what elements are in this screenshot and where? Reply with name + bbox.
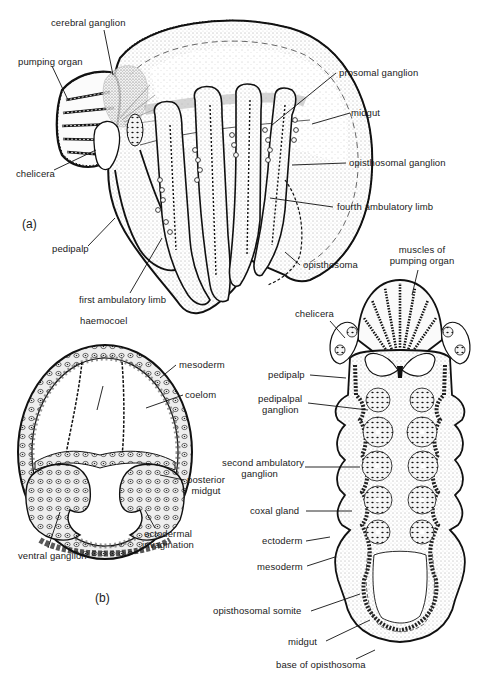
- label-chelicera-a: chelicera: [16, 168, 55, 179]
- label-fourth-ambulatory-limb: fourth ambulatory limb: [337, 201, 433, 212]
- label-muscles-of-pumping-organ: muscles of pumping organ: [389, 244, 455, 266]
- label-opisthosomal-ganglion: opisthosomal ganglion: [349, 157, 446, 168]
- label-base-of-opisthosoma: base of opisthosoma: [276, 659, 366, 670]
- label-mesoderm-b-right: mesoderm: [257, 561, 303, 572]
- label-prosomal-ganglion: prosomal ganglion: [339, 67, 418, 78]
- label-midgut-b: midgut: [288, 636, 317, 647]
- label-coxal-gland: coxal gland: [250, 505, 299, 516]
- embryo-figure: [0, 0, 494, 685]
- panel-label-a: (a): [22, 217, 37, 231]
- label-pedipalpal-ganglion: pedipalpal ganglion: [258, 393, 302, 415]
- label-opisthosoma: opisthosoma: [303, 259, 358, 270]
- panel-label-b: (b): [95, 591, 110, 605]
- label-haemocoel: haemocoel: [80, 315, 127, 326]
- label-ectoderm: ectoderm: [262, 535, 302, 546]
- label-pedipalp-b: pedipalp: [268, 369, 305, 380]
- label-second-ambulatory-ganglion: second ambulatory ganglion: [214, 457, 304, 479]
- label-opisthosomal-somite: opisthosomal somite: [213, 605, 302, 616]
- label-midgut-a: midgut: [351, 107, 380, 118]
- panel-b-cross-section: [18, 345, 192, 559]
- label-cerebral-ganglion: cerebral ganglion: [51, 17, 126, 28]
- label-first-ambulatory-limb: first ambulatory limb: [79, 294, 166, 305]
- label-pumping-organ: pumping organ: [18, 56, 83, 67]
- label-pedipalp-a: pedipalp: [52, 243, 89, 254]
- label-chelicera-b: chelicera: [295, 308, 334, 319]
- label-mesoderm-b-left: mesoderm: [179, 359, 225, 370]
- label-ventral-ganglion: ventral ganglion: [18, 550, 87, 561]
- label-ectodermal-invagination: ectodermal invagination: [140, 528, 196, 550]
- label-coelom: coelom: [185, 389, 216, 400]
- panel-b-horizontal-section: [305, 270, 470, 659]
